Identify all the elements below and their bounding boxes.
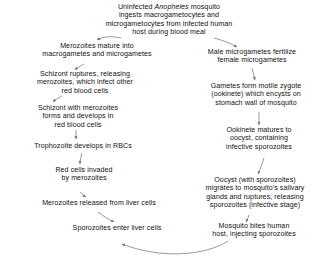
node-text-line-a: Uninfected (118, 3, 155, 11)
node-gametes-form-zygote: Gametes form motile zygote (ookinete) wh… (182, 82, 330, 107)
arrow-merozoites-released-to-sporozoites-enter (98, 212, 114, 222)
arrow-oocyst-migrates-to-mosquito-bites (246, 215, 249, 222)
arrow-top-to-male-microgametes (214, 38, 237, 47)
node-sporozoites-enter-liver: Sporozoites enter liver cells (32, 224, 202, 232)
node-trophozoite-develops: Trophozoite develops in RBCs (6, 142, 160, 150)
node-ookinete-matures: Ookinete matures to oocyst, containing i… (190, 126, 328, 151)
node-red-cells-invaded: Red cells invaded by merozoites (22, 166, 146, 183)
node-schizont-forms: Schizont with merozoites forms and devel… (8, 104, 148, 129)
node-male-microgametes-fertilize: Male microgametes fertilize female micro… (180, 48, 324, 65)
scientific-name-anopheles: Anopheles (155, 3, 189, 11)
arrow-ookinete-to-oocyst-migrates (258, 158, 264, 174)
node-merozoites-released-liver: Merozoites released from liver cells (8, 199, 190, 207)
arrow-male-microgametes-to-gametes (252, 68, 255, 80)
node-schizont-ruptures: Schizont ruptures, releasing merozoites,… (12, 70, 158, 95)
node-mosquito-bites-human: Mosquito bites human host, injecting spo… (180, 222, 328, 239)
arrow-top-to-merozoites-mature (97, 37, 121, 40)
node-merozoites-mature: Merozoites mature into macrogametes and … (24, 42, 170, 59)
node-uninfected-mosquito: Uninfected Anopheles mosquito ingests ma… (78, 3, 260, 37)
arrow-red-cells-to-merozoites-released (80, 192, 86, 197)
malaria-life-cycle-diagram: Uninfected Anopheles mosquito ingests ma… (0, 0, 334, 269)
arrow-mosquito-bites-to-sporozoites-enter (122, 241, 228, 254)
arrow-schizont-ruptures-to-schizont-forms (53, 96, 62, 102)
arrow-trophozoite-to-red-cells-invaded (80, 153, 82, 164)
node-oocyst-migrates: Oocyst (with sporozoites) migrates to mo… (178, 176, 332, 210)
